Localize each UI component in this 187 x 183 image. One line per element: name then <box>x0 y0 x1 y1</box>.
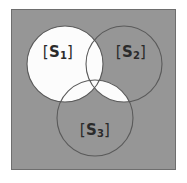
set-label-s2: [S2] <box>116 43 146 62</box>
venn-diagram-canvas: [S1] [S2] [S3] <box>0 0 187 183</box>
set-label-s1: [S1] <box>43 43 73 62</box>
set-label-s1-base: S <box>49 43 60 61</box>
set-label-s3: [S3] <box>80 121 110 140</box>
set-label-s2-subscript: 2 <box>133 50 140 61</box>
set-label-s1-subscript: 1 <box>60 50 67 61</box>
set-label-s1-close: ] <box>67 43 73 61</box>
venn-diagram-figure: [S1] [S2] [S3] <box>0 0 187 183</box>
set-label-s3-base: S <box>86 121 97 139</box>
set-label-s3-close: ] <box>104 121 110 139</box>
set-label-s3-subscript: 3 <box>97 128 104 139</box>
set-label-s2-base: S <box>122 43 133 61</box>
set-label-s2-close: ] <box>140 43 146 61</box>
